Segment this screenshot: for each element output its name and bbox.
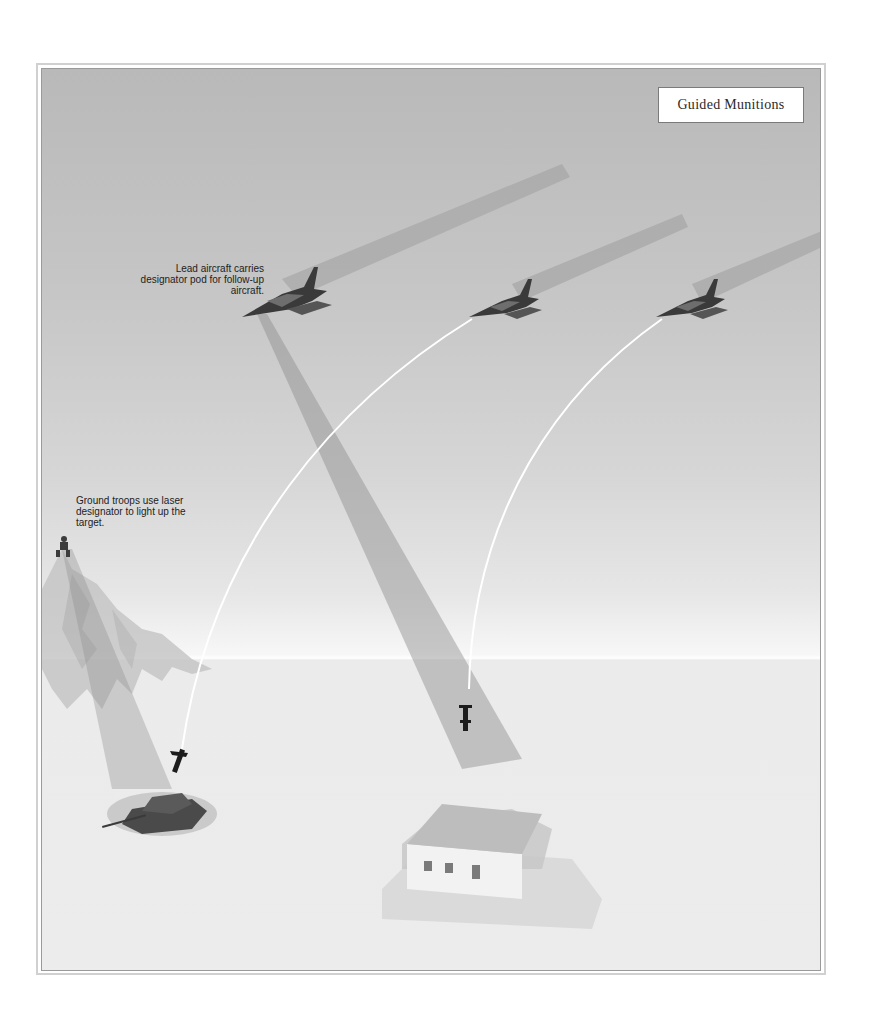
building-target xyxy=(382,804,602,929)
lead-aircraft-caption: Lead aircraft carries designator pod for… xyxy=(134,263,264,296)
ground-troops-caption: Ground troops use laser designator to li… xyxy=(76,495,216,528)
title-label: Guided Munitions xyxy=(658,87,804,123)
bomb-on-tank xyxy=(170,749,188,773)
illustration-panel: Guided Munitions Lead aircraft carries d… xyxy=(41,68,821,971)
lead-aircraft-laser-beam xyxy=(257,314,522,769)
trajectory-to-building xyxy=(469,319,662,689)
contrails xyxy=(282,164,821,303)
title-text: Guided Munitions xyxy=(677,97,784,113)
tank-target xyxy=(102,792,217,836)
